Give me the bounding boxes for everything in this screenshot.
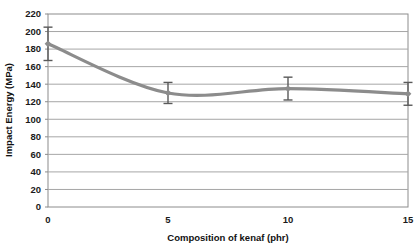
- y-tick-label: 60: [30, 149, 41, 160]
- y-tick-label: 80: [30, 131, 41, 142]
- plot-area-frame: [48, 14, 408, 207]
- x-tick-label: 5: [165, 214, 171, 225]
- x-axis-title: Composition of kenaf (phr): [167, 232, 288, 243]
- y-tick-label: 120: [25, 96, 41, 107]
- y-tick-label: 20: [30, 184, 41, 195]
- y-tick-label: 160: [25, 61, 41, 72]
- y-tick-label: 40: [30, 166, 41, 177]
- x-tick-label: 0: [45, 214, 50, 225]
- x-tick-label: 15: [403, 214, 414, 225]
- y-tick-label: 100: [25, 114, 41, 125]
- impact-energy-chart: 020406080100120140160180200220 051015 Co…: [0, 0, 414, 249]
- y-tick-label: 140: [25, 79, 41, 90]
- x-tick-label: 10: [283, 214, 294, 225]
- y-tick-label: 0: [36, 201, 41, 212]
- y-tick-label: 220: [25, 8, 41, 19]
- y-axis-title: Impact Energy (MPa): [3, 63, 14, 157]
- y-tick-label: 180: [25, 43, 41, 54]
- y-tick-label: 200: [25, 26, 41, 37]
- chart-svg: 020406080100120140160180200220 051015 Co…: [0, 0, 414, 249]
